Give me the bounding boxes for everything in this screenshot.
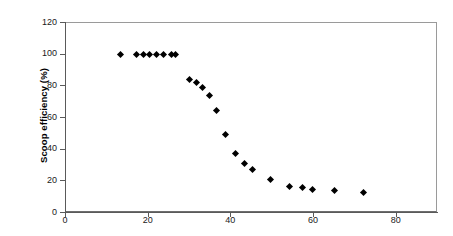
data-point-marker: [248, 166, 255, 173]
data-point-marker: [205, 91, 212, 98]
data-point-marker: [117, 51, 124, 58]
plot-frame: [65, 22, 437, 212]
data-point-marker: [299, 184, 306, 191]
data-point-marker: [160, 51, 167, 58]
data-point-marker: [331, 187, 338, 194]
y-tick-label: 40: [31, 144, 57, 153]
data-point-marker: [309, 186, 316, 193]
y-tick-label: 20: [31, 176, 57, 185]
x-tick-label: 80: [376, 216, 416, 225]
data-point-marker: [186, 76, 193, 83]
x-tick-label: 20: [128, 216, 168, 225]
data-point-marker: [222, 131, 229, 138]
x-tick-label: 60: [293, 216, 333, 225]
y-tick-label-container: 100: [31, 49, 57, 58]
y-tick-label-container: 20: [31, 176, 57, 185]
y-tick-label-container: 80: [31, 81, 57, 90]
data-point-marker: [199, 84, 206, 91]
data-point-marker: [232, 150, 239, 157]
data-point-marker: [286, 183, 293, 190]
y-tick-label: 120: [31, 18, 57, 27]
y-tick-label-container: 60: [31, 113, 57, 122]
y-tick-label: 100: [31, 49, 57, 58]
plot-area: [66, 23, 436, 211]
data-point-marker: [267, 176, 274, 183]
y-tick-label-container: 120: [31, 18, 57, 27]
y-tick-label: 60: [31, 113, 57, 122]
y-tick-label: 80: [31, 81, 57, 90]
data-point-marker: [193, 79, 200, 86]
y-axis-line: [65, 22, 66, 213]
x-tick-label: 40: [210, 216, 250, 225]
data-point-marker: [213, 107, 220, 114]
data-point-marker: [241, 160, 248, 167]
data-point-marker: [360, 189, 367, 196]
chart-figure: Scoop efficiency (%) 020406080100120 020…: [0, 0, 453, 236]
data-point-marker: [133, 51, 140, 58]
data-point-marker: [172, 51, 179, 58]
x-axis-line: [65, 212, 438, 213]
y-tick-label-container: 40: [31, 144, 57, 153]
x-tick-label: 0: [45, 216, 85, 225]
